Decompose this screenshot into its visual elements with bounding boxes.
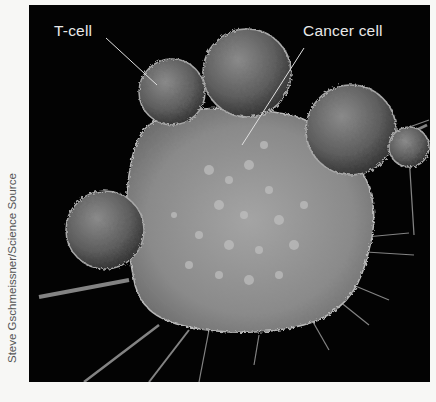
- t-cell-leader-line: [106, 38, 157, 85]
- micrograph-figure: T-cell Cancer cell: [29, 5, 430, 382]
- t-cell-top-left: [139, 59, 205, 125]
- t-cell-right: [306, 85, 396, 175]
- t-cell-top: [203, 29, 291, 117]
- sem-micrograph-image: [29, 5, 430, 382]
- t-cell-label: T-cell: [54, 22, 92, 40]
- photo-credit: Steve Gschmeissner/Science Source: [6, 173, 18, 363]
- t-cell-right-small: [389, 127, 429, 167]
- t-cell-left: [66, 191, 144, 269]
- cancer-cell-label: Cancer cell: [303, 22, 383, 40]
